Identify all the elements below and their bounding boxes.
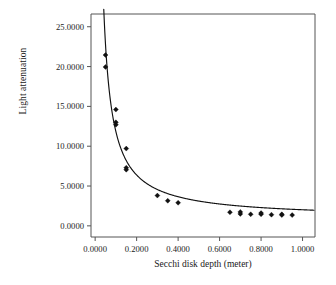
y-axis-ticks: 0.00005.000010.000015.000020.000025.0000 [56,22,91,231]
data-point-marker [103,53,108,58]
data-point-marker [248,212,253,217]
y-tick-label: 10.0000 [56,141,84,151]
data-point-marker [290,213,295,218]
data-point-marker [269,212,274,217]
x-tick-label: 0.0000 [83,244,107,254]
y-tick-label: 25.0000 [56,22,84,32]
data-point-marker [227,210,232,215]
x-axis-ticks: 0.00000.20000.40000.60000.80001.0000 [83,237,314,254]
y-axis-title: Light attenuation [18,21,28,141]
data-point-marker [165,198,170,203]
x-tick-label: 0.2000 [125,244,149,254]
data-points [103,53,295,218]
y-tick-label: 5.0000 [60,181,84,191]
data-point-marker [155,193,160,198]
chart-canvas: 0.00005.000010.000015.000020.000025.0000… [0,0,336,285]
x-tick-label: 0.6000 [208,244,232,254]
data-point-marker [176,200,181,205]
x-tick-label: 0.8000 [249,244,273,254]
axis-frame [91,14,315,237]
y-tick-label: 20.0000 [56,62,84,72]
fit-curve [104,9,314,210]
y-tick-label: 15.0000 [56,101,84,111]
x-tick-label: 1.0000 [291,244,315,254]
y-tick-label: 0.0000 [60,221,84,231]
x-axis-title: Secchi disk depth (meter) [91,259,315,269]
data-point-marker [124,146,129,151]
x-tick-label: 0.4000 [166,244,190,254]
figure: 0.00005.000010.000015.000020.000025.0000… [0,0,336,285]
data-point-marker [113,107,118,112]
